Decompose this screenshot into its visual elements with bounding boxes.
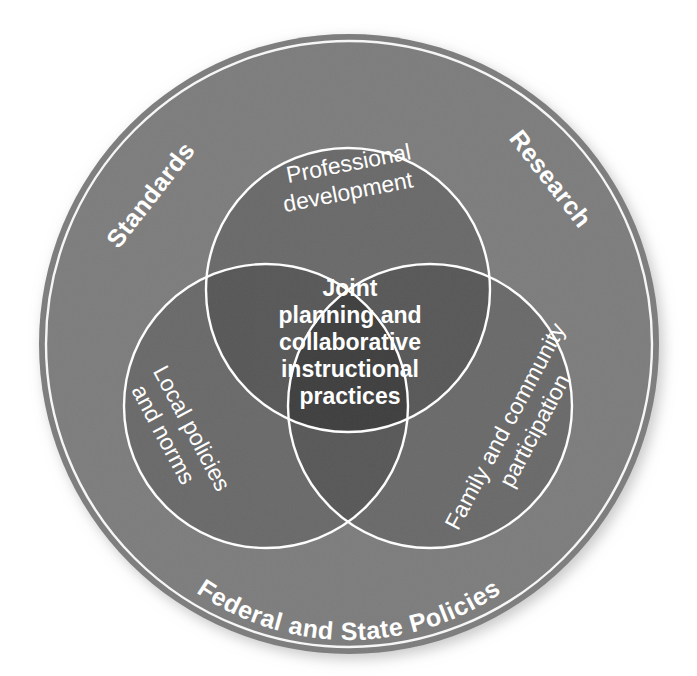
- center-line-1: Joint: [323, 275, 378, 301]
- center-line-5: practices: [299, 383, 400, 409]
- center-line-2: planning and: [278, 302, 421, 328]
- diagram-canvas: Standards Research Federal and State Pol…: [0, 0, 697, 676]
- center-line-3: collaborative: [279, 329, 421, 355]
- venn-diagram: Standards Research Federal and State Pol…: [0, 0, 697, 676]
- center-line-4: instructional: [281, 356, 419, 382]
